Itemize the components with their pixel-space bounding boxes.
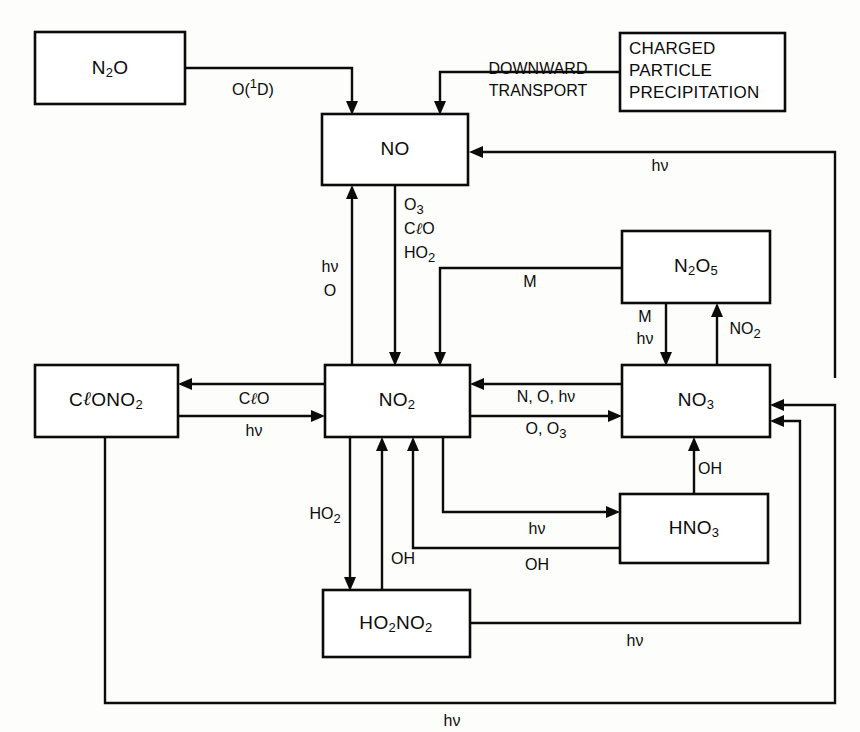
diagram-canvas: N2O CHARGED PARTICLE PRECIPITATION NO N2…: [0, 0, 860, 732]
edge-label-hv-bottom: hν: [444, 712, 461, 729]
edge-label-o3: O3: [404, 196, 424, 217]
edge-label-oh-no3: OH: [698, 460, 722, 477]
edge-label-m-down: M: [638, 308, 651, 325]
box-clono2[interactable]: CℓONO2: [35, 365, 178, 437]
edge-no2-to-hno3-hv: [443, 437, 620, 518]
box-label-hno3: HNO3: [669, 517, 720, 540]
box-label-ho2no2: HO2NO2: [359, 612, 432, 635]
edge-label-hv-down: hν: [637, 330, 654, 347]
cpp-line-2: PARTICLE: [629, 61, 712, 80]
edge-label-hv-hno3: hν: [529, 520, 546, 537]
box-no2[interactable]: NO2: [325, 365, 470, 437]
box-no3[interactable]: NO3: [622, 365, 770, 437]
edge-label-clo-mid: CℓO: [404, 220, 435, 238]
box-ho2no2[interactable]: HO2NO2: [323, 590, 470, 657]
edge-no2-to-clono2: [178, 378, 325, 390]
edge-label-hv-left: hν: [322, 258, 339, 275]
edge-n2o5-to-no3: [660, 303, 672, 366]
box-label-clono2: CℓONO2: [69, 388, 143, 412]
box-n2o[interactable]: N2O: [35, 32, 185, 104]
edge-label-downward: DOWNWARD: [489, 60, 588, 77]
box-charged-particle-precipitation[interactable]: CHARGED PARTICLE PRECIPITATION: [620, 33, 785, 111]
edge-label-n-o-hv: N, O, hν: [517, 388, 576, 405]
edge-label-hv-ho2no2: hν: [627, 632, 644, 649]
edge-label-hv-clono2: hν: [246, 422, 263, 439]
edge-label-ho2-lower: HO2: [309, 505, 340, 526]
edge-no3-to-n2o5: [711, 303, 723, 365]
edge-ho2no2-to-no2: [376, 437, 388, 590]
nox-photochemistry-diagram: N2O CHARGED PARTICLE PRECIPITATION NO N2…: [0, 0, 860, 732]
edge-label-o1d: O(1D): [232, 76, 274, 98]
edge-label-o-left: O: [324, 282, 336, 299]
box-label-no: NO: [380, 138, 409, 159]
box-no[interactable]: NO: [322, 114, 468, 185]
box-hno3[interactable]: HNO3: [620, 494, 768, 563]
edge-label-oh-hno3: OH: [525, 556, 549, 573]
edge-label-oh-ho2no2: OH: [391, 550, 415, 567]
edge-label-m-n2o5: M: [523, 273, 536, 290]
edge-clono2-to-no2: [178, 410, 325, 422]
cpp-line-3: PRECIPITATION: [629, 83, 759, 102]
box-n2o5[interactable]: N2O5: [622, 231, 770, 303]
edge-no-to-no2: [389, 185, 401, 366]
edge-label-hv-no3-to-no: hν: [652, 157, 669, 174]
edge-label-transport: TRANSPORT: [489, 82, 588, 99]
edge-hno3-to-no2-oh: [407, 437, 620, 548]
edge-no2-to-no: [346, 185, 358, 365]
edge-label-ho2-mid: HO2: [404, 244, 435, 265]
cpp-line-1: CHARGED: [629, 39, 715, 58]
edge-label-clo-left: CℓO: [239, 390, 270, 408]
edge-no2-to-ho2no2: [344, 437, 356, 591]
edge-label-no2-up: NO2: [729, 320, 760, 341]
edge-label-o-o3: O, O3: [525, 420, 566, 441]
